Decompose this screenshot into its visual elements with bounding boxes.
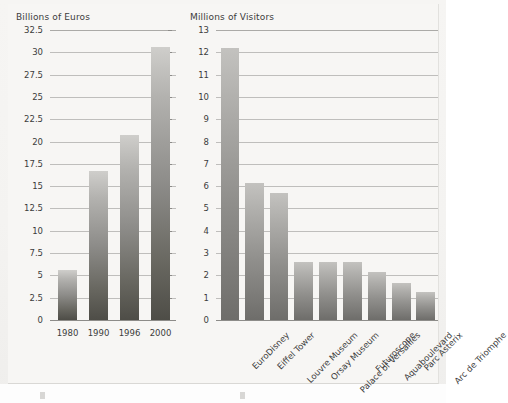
gridline	[216, 75, 438, 76]
y-axis-tick-label: 0	[16, 315, 43, 325]
y-axis-tick-label: 15	[16, 181, 43, 191]
y-axis-tick-label: 8	[190, 137, 209, 147]
bar	[89, 171, 108, 320]
bar	[294, 262, 313, 320]
y-axis-tick-label: 30	[16, 47, 43, 57]
y-axis-tick-label: 0	[190, 315, 209, 325]
y-axis-tick-label: 22.5	[16, 114, 43, 124]
bar	[151, 47, 170, 320]
gridline	[216, 97, 438, 98]
y-axis-tick-label: 1	[190, 293, 209, 303]
gridline	[216, 30, 438, 31]
chart-right-plot-area: 012345678910111213EuroDisneyEiffel Tower…	[190, 30, 440, 320]
x-axis-category-label: 1990	[83, 328, 114, 338]
bar	[343, 262, 362, 320]
x-axis-category-label: 1980	[52, 328, 83, 338]
bar	[58, 270, 77, 320]
bar	[416, 292, 435, 320]
y-axis-tick-label: 2	[190, 270, 209, 280]
x-axis-category-label: 2000	[145, 328, 176, 338]
y-axis-tick-label: 10	[16, 226, 43, 236]
gridline	[50, 30, 176, 31]
y-axis-tick-label: 5	[190, 203, 209, 213]
y-axis-tick-label: 27.5	[16, 70, 43, 80]
bar	[120, 135, 139, 320]
y-axis-tick-label: 10	[190, 92, 209, 102]
chart-billions-of-euros: Billions of Euros 02.557.51012.51517.520…	[16, 12, 186, 352]
y-axis-tick-label: 7.5	[16, 248, 43, 258]
y-axis-tick-label: 9	[190, 114, 209, 124]
bar	[270, 193, 289, 320]
chart-millions-of-visitors: Millions of Visitors 012345678910111213E…	[190, 12, 440, 392]
x-axis-line	[50, 320, 176, 321]
y-axis-tick-label: 5	[16, 270, 43, 280]
page-edge-mark-right	[240, 392, 245, 399]
y-axis-tick-label: 2.5	[16, 293, 43, 303]
page-edge-mark-left	[40, 392, 45, 399]
y-axis-tick-mark	[168, 30, 172, 31]
x-axis-line	[216, 320, 438, 321]
y-axis-tick-label: 12	[190, 47, 209, 57]
gridline	[216, 52, 438, 53]
gridline	[216, 119, 438, 120]
y-axis-tick-label: 3	[190, 248, 209, 258]
y-axis-tick-label: 32.5	[16, 25, 43, 35]
chart-left-plot-area: 02.557.51012.51517.52022.52527.53032.519…	[16, 30, 186, 320]
y-axis-tick-label: 20	[16, 137, 43, 147]
chart-left-title: Billions of Euros	[16, 12, 90, 22]
bar	[221, 48, 240, 320]
bar	[392, 283, 411, 320]
bar	[368, 272, 387, 320]
y-axis-tick-label: 11	[190, 70, 209, 80]
y-axis-tick-label: 17.5	[16, 159, 43, 169]
bar	[319, 262, 338, 320]
y-axis-tick-label: 13	[190, 25, 209, 35]
chart-right-title: Millions of Visitors	[190, 12, 274, 22]
bar	[245, 183, 264, 320]
y-axis-tick-label: 6	[190, 181, 209, 191]
gridline	[216, 164, 438, 165]
y-axis-tick-label: 12.5	[16, 203, 43, 213]
y-axis-tick-label: 4	[190, 226, 209, 236]
y-axis-tick-label: 25	[16, 92, 43, 102]
x-axis-category-label: 1996	[114, 328, 145, 338]
gridline	[216, 142, 438, 143]
y-axis-tick-label: 7	[190, 159, 209, 169]
